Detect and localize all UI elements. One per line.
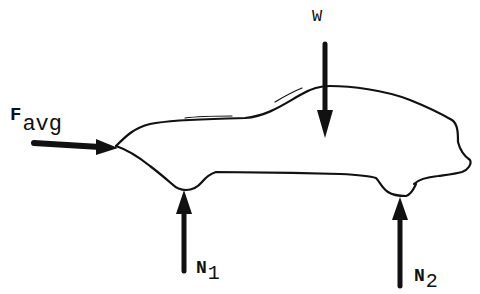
force-f-avg-arrow xyxy=(34,139,118,155)
label-f-avg-subscript: avg xyxy=(22,112,62,137)
force-n2-arrow xyxy=(392,197,408,286)
label-n1-subscript: 1 xyxy=(208,262,220,285)
label-n2-symbol: N xyxy=(414,266,425,286)
label-w: W xyxy=(312,8,322,25)
car-outline xyxy=(116,86,471,196)
car-sketch-stroke-windshield xyxy=(275,88,302,102)
label-n2-subscript: 2 xyxy=(426,270,438,293)
label-n2: N2 xyxy=(414,266,437,286)
label-w-symbol: W xyxy=(312,7,322,26)
label-n1-symbol: N xyxy=(196,258,207,278)
car-upper-body xyxy=(116,86,471,184)
force-w-arrow xyxy=(317,44,333,138)
label-f-avg-symbol: F xyxy=(10,104,21,126)
free-body-diagram xyxy=(0,0,480,294)
car-lower-body xyxy=(116,146,416,196)
label-f-avg: Favg xyxy=(10,104,61,126)
label-n1: N1 xyxy=(196,258,219,278)
force-n1-arrow xyxy=(176,190,192,271)
